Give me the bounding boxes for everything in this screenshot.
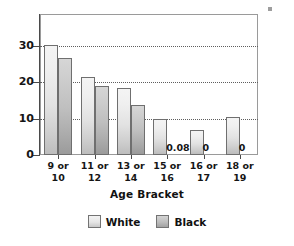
x-axis-tick — [131, 155, 132, 159]
bar-value-label: 0 — [203, 142, 210, 153]
bar-black — [131, 105, 145, 155]
bar-white — [153, 119, 167, 155]
x-axis-category-line: 19 — [218, 172, 262, 184]
x-axis-tick — [95, 155, 96, 159]
legend-entry-black: Black — [156, 215, 206, 228]
x-axis-category-line: 18 or — [218, 160, 262, 172]
legend-label: White — [106, 216, 141, 228]
y-axis-tick-label: 10 — [0, 112, 34, 125]
y-axis-tick-label: 0 — [0, 148, 34, 161]
corner-artifact-mark — [268, 7, 272, 11]
bar-white — [44, 45, 58, 155]
legend-swatch-white — [88, 215, 101, 228]
bar-white — [81, 77, 95, 155]
x-axis-tick — [58, 155, 59, 159]
legend-swatch-black — [156, 215, 169, 228]
bar-white — [226, 117, 240, 155]
x-axis-tick — [167, 155, 168, 159]
legend-entry-white: White — [88, 215, 141, 228]
x-axis-tick — [240, 155, 241, 159]
legend-label: Black — [174, 216, 206, 228]
bar-black — [58, 58, 72, 155]
bar-chart-figure: 0102030 9 or1011 or1213 or1415 or1616 or… — [0, 0, 294, 246]
chart-legend: WhiteBlack — [0, 215, 294, 228]
x-axis-tick — [204, 155, 205, 159]
x-axis-category-label: 18 or19 — [218, 160, 262, 183]
bar-white — [117, 88, 131, 155]
bar-white — [190, 130, 204, 155]
x-axis-title: Age Bracket — [0, 188, 294, 200]
y-axis-line — [39, 14, 40, 156]
bar-value-label: 0.08 — [166, 142, 189, 153]
y-axis-tick-label: 30 — [0, 39, 34, 52]
gridline — [40, 82, 258, 83]
bar-black — [95, 86, 109, 155]
y-axis-tick-label: 20 — [0, 75, 34, 88]
gridline — [40, 46, 258, 47]
bar-value-label: 0 — [239, 142, 246, 153]
